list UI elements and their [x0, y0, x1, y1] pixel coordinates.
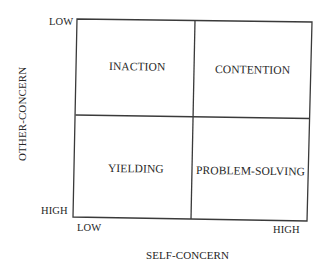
quadrant-yielding-label: YIELDING	[108, 163, 164, 175]
x-axis-low-label: LOW	[77, 223, 101, 234]
x-axis-high-label: HIGH	[273, 225, 300, 236]
y-axis-low-label: LOW	[49, 17, 73, 28]
quadrant-contention-label: CONTENTION	[215, 64, 290, 76]
quadrant-problem-solving-label: PROBLEM-SOLVING	[196, 165, 305, 178]
y-axis-high-label: HIGH	[41, 206, 68, 217]
dual-concern-matrix: INACTION CONTENTION YIELDING PROBLEM-SOL…	[0, 0, 325, 275]
matrix-vertical-divider	[191, 21, 195, 220]
x-axis-title: SELF-CONCERN	[146, 250, 229, 261]
y-axis-title: OTHER-CONCERN	[17, 67, 28, 161]
quadrant-inaction-label: INACTION	[109, 61, 166, 73]
